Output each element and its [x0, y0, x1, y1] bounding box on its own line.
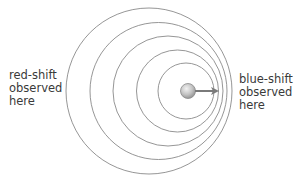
blue-shift-label-line3: here [239, 99, 293, 112]
red-shift-label-line3: here [9, 95, 62, 108]
red-shift-label: red-shift observed here [9, 69, 62, 108]
blue-shift-label: blue-shift observed here [239, 73, 293, 112]
moving-source-sphere [181, 84, 196, 99]
doppler-diagram: red-shift observed here blue-shift obser… [0, 0, 294, 175]
